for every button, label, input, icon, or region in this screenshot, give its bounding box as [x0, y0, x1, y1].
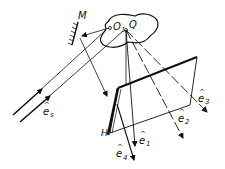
- svg-text:1: 1: [146, 140, 150, 148]
- svg-text:^: ^: [44, 101, 50, 109]
- plate-label: H: [101, 128, 108, 138]
- e3-label: e ^ 3: [198, 88, 209, 106]
- svg-text:2: 2: [185, 118, 190, 126]
- e2-label: e ^ 2: [178, 108, 190, 126]
- ray-o1-to-mirror: [82, 28, 109, 36]
- svg-text:3: 3: [205, 98, 209, 106]
- e1-label: e ^ 1: [139, 130, 150, 148]
- o1-label: O1: [113, 21, 125, 34]
- svg-text:^: ^: [140, 130, 146, 138]
- incident-beam-1-arrow: [13, 89, 42, 115]
- diagram-canvas: M O1 Q H e ^ s e ^ 1 e ^ 2 e ^ 3 e ^ 4: [0, 0, 225, 169]
- svg-text:4: 4: [123, 154, 127, 162]
- ray-mirror-to-plate: [80, 38, 107, 96]
- svg-text:^: ^: [117, 143, 123, 151]
- optics-diagram: M O1 Q H e ^ s e ^ 1 e ^ 2 e ^ 3 e ^ 4: [0, 0, 225, 169]
- e-s-label: e ^ s: [43, 101, 54, 119]
- mirror-m: [68, 22, 78, 45]
- q-label: Q: [129, 19, 137, 30]
- mirror-label: M: [78, 10, 87, 21]
- svg-text:s: s: [50, 111, 54, 119]
- e4-label: e ^ 4: [116, 143, 127, 162]
- svg-text:^: ^: [179, 108, 185, 116]
- svg-text:^: ^: [199, 88, 205, 96]
